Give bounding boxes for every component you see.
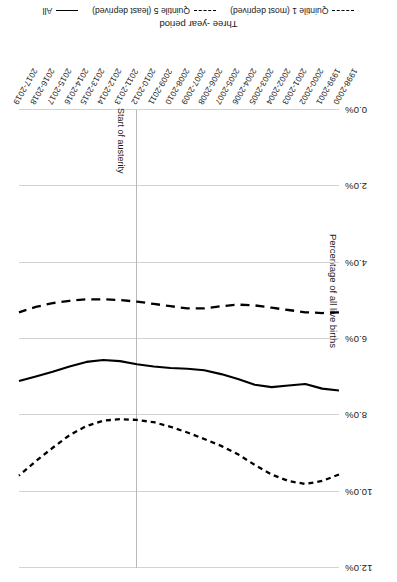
y-axis-tick-label: 12.0%: [345, 563, 372, 574]
plot-area: 0.0%2.0%4.0%6.0%8.0%10.0%12.0%: [19, 110, 339, 568]
rotated-figure-wrapper: Percentage of all live births 0.0%2.0%4.…: [0, 0, 397, 582]
legend-swatch-dashdot-icon: [332, 11, 354, 12]
x-axis-ticks-group: 1998-20001999-20012000-20022001-20032002…: [19, 34, 339, 106]
legend-swatch-dashed-icon: [194, 11, 216, 12]
y-axis-tick-label: 4.0%: [345, 257, 367, 268]
y-axis-tick-label: 0.0%: [345, 105, 367, 116]
x-axis-title: Three -year period: [0, 19, 397, 30]
y-axis-tick-label: 10.0%: [345, 486, 372, 497]
series-line: [19, 360, 339, 391]
legend-item: Quintile 5 (least deprived): [92, 6, 216, 16]
series-line: [19, 419, 339, 484]
austerity-annotation-label: Start of austerity: [116, 108, 126, 174]
y-axis-tick-label: 8.0%: [345, 410, 367, 421]
series-line: [19, 299, 339, 313]
legend-swatch-solid-icon: [56, 11, 78, 12]
legend-label: All: [43, 6, 53, 16]
y-axis-tick-label: 2.0%: [345, 181, 367, 192]
legend-item: All: [43, 6, 79, 16]
y-axis-tick-label: 6.0%: [345, 334, 367, 345]
chart-legend: Quintile 1 (most deprived)Quintile 5 (le…: [0, 6, 397, 16]
legend-label: Quintile 5 (least deprived): [92, 6, 190, 16]
legend-item: Quintile 1 (most deprived): [230, 6, 354, 16]
data-series-group: [19, 110, 339, 568]
chart-figure: Percentage of all live births 0.0%2.0%4.…: [0, 0, 397, 582]
legend-label: Quintile 1 (most deprived): [230, 6, 328, 16]
